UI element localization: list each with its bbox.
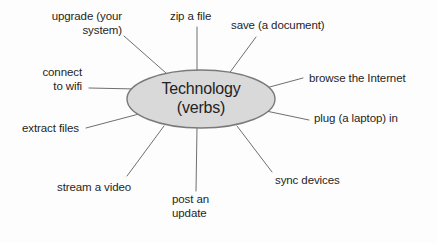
connector-line-upgrade — [124, 36, 166, 73]
node-label-post: post an update — [172, 193, 232, 220]
node-label-upgrade: upgrade (your system) — [22, 10, 122, 37]
node-label-browse: browse the Internet — [309, 72, 434, 86]
word-web-diagram: Technology (verbs) upgrade (your system)… — [0, 0, 437, 243]
connector-line-stream — [127, 126, 164, 176]
node-label-save: save (a document) — [231, 19, 351, 33]
node-label-zip: zip a file — [170, 10, 230, 24]
center-node-label: Technology (verbs) — [127, 79, 275, 117]
node-label-stream: stream a video — [57, 181, 157, 195]
node-label-plug: plug (a laptop) in — [314, 112, 434, 126]
connector-line-save — [228, 37, 256, 75]
node-label-connect: connect to wifi — [22, 66, 82, 93]
node-label-extract: extract files — [22, 122, 102, 136]
connector-line-sync — [237, 126, 272, 172]
node-label-sync: sync devices — [275, 174, 360, 188]
connector-line-post — [196, 128, 197, 191]
